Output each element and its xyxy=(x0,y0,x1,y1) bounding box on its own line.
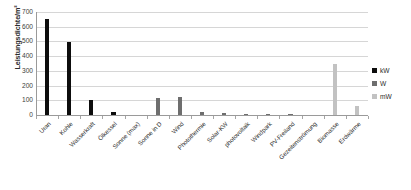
bar-chart: Leistungsdichte/m² 010020030040050060070… xyxy=(0,0,411,190)
legend-swatch-icon xyxy=(372,81,377,86)
x-axis-tick xyxy=(36,116,37,119)
x-axis-tick xyxy=(191,116,192,119)
x-axis-tick-labels: UranKohleWasserkraftÖlkesselSonne (max)S… xyxy=(0,0,411,190)
x-axis-tick xyxy=(257,116,258,119)
x-axis-tick xyxy=(58,116,59,119)
legend-item: W xyxy=(372,77,392,90)
x-axis-tick xyxy=(279,116,280,119)
x-axis-tick xyxy=(147,116,148,119)
x-axis-tick xyxy=(80,116,81,119)
x-axis-tick-label: Erdwärme xyxy=(316,120,362,166)
x-axis-tick xyxy=(302,116,303,119)
legend-label: W xyxy=(380,80,386,87)
x-axis-tick xyxy=(368,116,369,119)
legend-swatch-icon xyxy=(372,94,377,99)
legend-item: kW xyxy=(372,64,392,77)
x-axis-tick xyxy=(235,116,236,119)
x-axis-tick xyxy=(324,116,325,119)
legend-label: kW xyxy=(380,67,390,74)
x-axis-tick xyxy=(346,116,347,119)
chart-legend: kWWmW xyxy=(372,64,392,103)
x-axis-tick xyxy=(213,116,214,119)
legend-swatch-icon xyxy=(372,68,377,73)
x-axis-tick xyxy=(169,116,170,119)
legend-label: mW xyxy=(380,93,392,100)
x-axis-tick xyxy=(102,116,103,119)
legend-item: mW xyxy=(372,90,392,103)
x-axis-tick xyxy=(125,116,126,119)
